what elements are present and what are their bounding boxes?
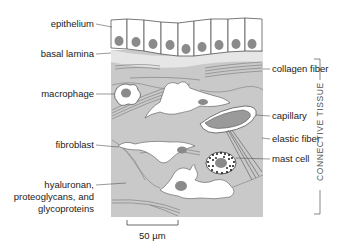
lower-cell-nucleus (175, 181, 187, 191)
fibroblast-nucleus (177, 147, 187, 154)
label-scale-bar: 50 µm (139, 230, 166, 241)
label-matrix-line2: proteoglycans, and (14, 191, 94, 202)
label-matrix-line3: glycoproteins (38, 203, 94, 214)
label-elastic-fiber: elastic fiber (272, 133, 320, 144)
label-basal-lamina: basal lamina (41, 48, 94, 59)
label-connective-tissue: CONNECTIVE TISSUE (315, 89, 325, 181)
label-capillary: capillary (272, 110, 307, 121)
scale-bar (127, 220, 178, 225)
connective-tissue-diagram: epithelium basal lamina macrophage fibro… (0, 0, 358, 250)
label-mast-cell: mast cell (272, 153, 309, 164)
label-matrix-line1: hyaluronan, (44, 179, 94, 190)
label-macrophage: macrophage (41, 88, 94, 99)
fibroblast-upper-nucleus (198, 99, 208, 105)
label-collagen-fiber: collagen fiber (272, 63, 329, 74)
label-epithelium: epithelium (51, 18, 94, 29)
macrophage-nucleus (121, 89, 131, 98)
mast-cell (206, 152, 236, 174)
label-fibroblast: fibroblast (55, 139, 94, 150)
